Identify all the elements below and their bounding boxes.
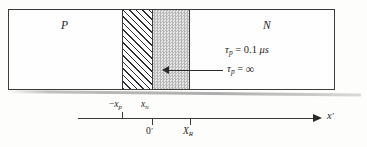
R-subscript: R bbox=[189, 130, 193, 137]
tau-relation: = bbox=[237, 63, 243, 74]
tick-label-XR: XR bbox=[183, 126, 193, 137]
tau-value: 0.1 bbox=[244, 44, 257, 55]
tick-label-minus-xp: −xp bbox=[109, 99, 122, 110]
tau-p-infinite-annotation: τp = ∞ bbox=[227, 63, 254, 76]
tau-unit: μs bbox=[260, 44, 269, 55]
p-subscript: p bbox=[119, 103, 122, 110]
tick-minus-xp bbox=[122, 112, 123, 119]
scan-artifact-line bbox=[6, 90, 361, 96]
x-axis-line bbox=[78, 118, 316, 119]
n-region-label: N bbox=[263, 19, 271, 31]
tick-label-xn: xn bbox=[141, 99, 149, 110]
infinity-symbol: ∞ bbox=[246, 62, 255, 76]
space-charge-hatched-region bbox=[122, 10, 152, 89]
leader-arrow-icon bbox=[168, 70, 223, 71]
n-subscript: n bbox=[145, 103, 148, 110]
p-region-label: P bbox=[61, 19, 68, 31]
tau-subscript: p bbox=[229, 48, 233, 57]
tick-label-origin: 0′ bbox=[146, 126, 153, 136]
tau-subscript: p bbox=[231, 67, 235, 76]
tau-relation: = bbox=[235, 44, 241, 55]
recombination-stippled-region bbox=[152, 10, 190, 89]
tick-XR bbox=[190, 118, 191, 125]
x-axis-label: x′ bbox=[327, 110, 334, 121]
x-axis-arrowhead-icon bbox=[313, 114, 322, 122]
tick-xn-origin bbox=[152, 118, 153, 125]
x-axis-label-prime: ′ bbox=[332, 111, 334, 121]
tau-p-finite-annotation: τp = 0.1 μs bbox=[225, 44, 269, 57]
origin-prime: ′ bbox=[151, 127, 153, 136]
pn-junction-diagram: P N τp = 0.1 μs τp = ∞ x′ −xp xn 0′ XR bbox=[0, 0, 367, 147]
